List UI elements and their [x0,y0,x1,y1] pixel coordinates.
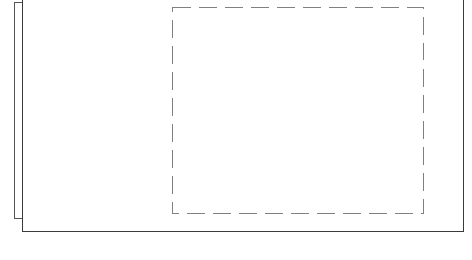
figure-canvas [0,0,472,260]
line-drawing [0,0,472,260]
back-plane-outline [15,3,23,219]
front-plane-fill [23,0,463,231]
